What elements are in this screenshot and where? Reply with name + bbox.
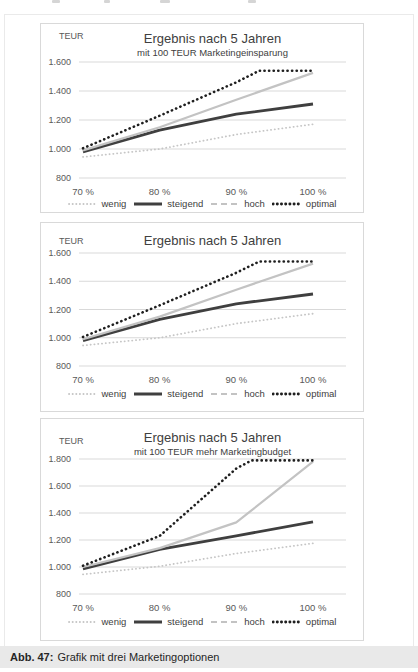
legend-item-hoch: hoch xyxy=(210,388,265,399)
legend-swatch-dotted-bold xyxy=(272,390,302,398)
series-line-hoch xyxy=(83,73,313,150)
y-axis-tick-label: 1.000 xyxy=(48,562,71,572)
x-axis-tick-label: 90 % xyxy=(226,602,248,613)
y-axis-unit-label: TEUR xyxy=(59,31,84,41)
y-axis-tick-label: 1.400 xyxy=(48,86,71,96)
legend-item-wenig: wenig xyxy=(68,616,127,627)
chart-title: Ergebnis nach 5 Jahren xyxy=(144,31,281,46)
series-line-steigend xyxy=(83,104,313,152)
x-axis-tick-label: 70 % xyxy=(72,186,94,197)
clipped-text-fragment xyxy=(52,0,60,3)
y-axis-tick-label: 1.600 xyxy=(48,57,71,67)
series-line-hoch xyxy=(83,264,313,340)
y-axis-tick-label: 1.600 xyxy=(48,248,71,258)
legend-item-wenig: wenig xyxy=(68,388,127,399)
chart-plot: 1.6001.4001.2001.000800TEURErgebnis nach… xyxy=(41,24,363,212)
x-axis-tick-label: 70 % xyxy=(72,602,94,613)
legend-item-steigend: steigend xyxy=(133,198,203,209)
y-axis-tick-label: 800 xyxy=(56,173,71,183)
caption-label: Abb. 47: xyxy=(10,651,53,663)
legend-swatch-dotted xyxy=(68,618,98,626)
x-axis-tick-label: 100 % xyxy=(300,602,327,613)
y-axis-tick-label: 1.200 xyxy=(48,305,71,315)
chart-subtitle: mit 100 TEUR mehr Marketingbudget xyxy=(134,446,292,457)
series-line-steigend xyxy=(83,522,313,569)
legend-swatch-dashed xyxy=(210,200,240,208)
chart-subtitle: mit 100 TEUR Marketingeinsparung xyxy=(137,47,288,58)
clipped-text-fragment xyxy=(160,0,170,3)
legend-item-hoch: hoch xyxy=(210,616,265,627)
chart-plot: 1.6001.4001.2001.000800TEURErgebnis nach… xyxy=(41,223,363,411)
y-axis-tick-label: 1.000 xyxy=(48,144,71,154)
x-axis-tick-label: 80 % xyxy=(149,602,171,613)
legend-item-optimal: optimal xyxy=(272,198,337,209)
chart-legend: wenigsteigendhochoptimal xyxy=(41,388,363,399)
legend-swatch-solid xyxy=(133,200,163,208)
legend-label: hoch xyxy=(244,388,265,399)
legend-item-optimal: optimal xyxy=(272,616,337,627)
chart-legend: wenigsteigendhochoptimal xyxy=(41,616,363,627)
y-axis-unit-label: TEUR xyxy=(59,236,84,246)
legend-item-hoch: hoch xyxy=(210,198,265,209)
y-axis-tick-label: 1.800 xyxy=(48,454,71,464)
legend-item-optimal: optimal xyxy=(272,388,337,399)
legend-swatch-dashed xyxy=(210,390,240,398)
chart-marketingeinsparung: 1.6001.4001.2001.000800TEURErgebnis nach… xyxy=(40,23,364,213)
legend-label: optimal xyxy=(306,616,337,627)
legend-item-steigend: steigend xyxy=(133,616,203,627)
legend-swatch-solid xyxy=(133,390,163,398)
legend-swatch-dotted-bold xyxy=(272,200,302,208)
x-axis-tick-label: 100 % xyxy=(300,186,327,197)
y-axis-tick-label: 800 xyxy=(56,361,71,371)
document-page: 1.6001.4001.2001.000800TEURErgebnis nach… xyxy=(0,0,418,672)
chart-title: Ergebnis nach 5 Jahren xyxy=(144,233,281,248)
x-axis-tick-label: 80 % xyxy=(149,186,171,197)
chart-basis: 1.6001.4001.2001.000800TEURErgebnis nach… xyxy=(40,222,364,412)
figure-caption: Abb. 47: Grafik mit drei Marketingoption… xyxy=(0,646,418,668)
legend-label: hoch xyxy=(244,616,265,627)
y-axis-tick-label: 1.400 xyxy=(48,276,71,286)
legend-label: optimal xyxy=(306,388,337,399)
legend-swatch-dotted-bold xyxy=(272,618,302,626)
legend-label: steigend xyxy=(167,198,203,209)
chart-mehr-marketingbudget: 1.8001.6001.4001.2001.000800TEURErgebnis… xyxy=(40,418,364,641)
legend-label: wenig xyxy=(102,198,127,209)
legend-label: optimal xyxy=(306,198,337,209)
legend-label: steigend xyxy=(167,616,203,627)
legend-label: hoch xyxy=(244,198,265,209)
y-axis-tick-label: 1.200 xyxy=(48,535,71,545)
clipped-text-fragment xyxy=(104,0,110,3)
legend-label: steigend xyxy=(167,388,203,399)
x-axis-tick-label: 80 % xyxy=(149,374,171,385)
legend-label: wenig xyxy=(102,616,127,627)
legend-label: wenig xyxy=(102,388,127,399)
y-axis-unit-label: TEUR xyxy=(59,436,84,446)
y-axis-tick-label: 800 xyxy=(56,589,71,599)
legend-swatch-dashed xyxy=(210,618,240,626)
y-axis-tick-label: 1.400 xyxy=(48,508,71,518)
legend-swatch-dotted xyxy=(68,390,98,398)
legend-swatch-solid xyxy=(133,618,163,626)
legend-item-steigend: steigend xyxy=(133,388,203,399)
legend-item-wenig: wenig xyxy=(68,198,127,209)
x-axis-tick-label: 70 % xyxy=(72,374,94,385)
y-axis-tick-label: 1.200 xyxy=(48,115,71,125)
chart-plot: 1.8001.6001.4001.2001.000800TEURErgebnis… xyxy=(41,419,363,640)
x-axis-tick-label: 100 % xyxy=(300,374,327,385)
caption-text: Grafik mit drei Marketingoptionen xyxy=(57,651,219,663)
chart-title: Ergebnis nach 5 Jahren xyxy=(144,430,281,445)
y-axis-tick-label: 1.000 xyxy=(48,333,71,343)
x-axis-tick-label: 90 % xyxy=(226,374,248,385)
chart-legend: wenigsteigendhochoptimal xyxy=(41,198,363,209)
x-axis-tick-label: 90 % xyxy=(226,186,248,197)
y-axis-tick-label: 1.600 xyxy=(48,481,71,491)
clipped-text-fragment xyxy=(248,0,256,3)
legend-swatch-dotted xyxy=(68,200,98,208)
